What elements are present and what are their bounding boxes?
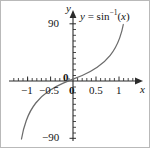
equation-equals: = xyxy=(85,10,97,22)
equation-paren-close: ) xyxy=(126,10,130,22)
inverse-sine-graph-figure: y = sin−1(x) y x 90 0 −90 −1 −0.5 0 0.5 … xyxy=(0,0,150,148)
y-tick-label-90: 90 xyxy=(48,18,59,29)
x-tick-label-0-5: 0.5 xyxy=(89,85,103,96)
equation-function: sin xyxy=(97,10,110,22)
arcsine-curve-upper xyxy=(73,25,123,80)
y-tick-label-0: 0 xyxy=(63,72,69,83)
x-tick-label-minus-0-5: −0.5 xyxy=(39,85,59,96)
x-tick-label-minus-1: −1 xyxy=(21,85,33,96)
x-tick-label-0: 0 xyxy=(69,85,75,96)
plot-canvas xyxy=(1,1,150,148)
x-tick-label-1: 1 xyxy=(116,85,122,96)
y-tick-label-minus-90: −90 xyxy=(42,132,59,143)
equation-annotation: y = sin−1(x) xyxy=(80,11,130,22)
y-axis-label: y xyxy=(66,3,71,14)
x-axis-label: x xyxy=(140,84,145,95)
